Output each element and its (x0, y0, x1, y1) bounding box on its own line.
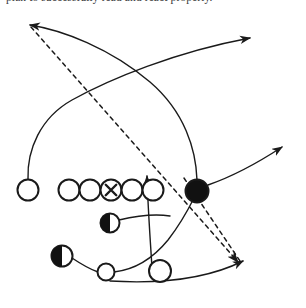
player-back-open-right (149, 260, 171, 282)
route-route-back-connect (72, 258, 98, 272)
route-route-flat-right (208, 147, 282, 185)
figure-page: plan to successfully read and react prop… (0, 0, 306, 308)
player-lineman-3 (122, 180, 143, 201)
player-marker-open-circle (122, 180, 143, 201)
player-half-fill (52, 246, 63, 267)
player-back-open-low (98, 264, 115, 281)
route-route-left-sweep (28, 38, 250, 179)
player-back-half-left (52, 246, 73, 267)
player-marker-open-circle (59, 180, 80, 201)
route-route-dash-long (31, 27, 238, 262)
player-lineman-4 (143, 180, 164, 201)
player-lineman-split-left (18, 180, 39, 201)
player-marker-open-circle (98, 264, 115, 281)
player-end-filled (186, 180, 209, 203)
player-marker-open-circle (80, 180, 101, 201)
player-marker-filled-circle (186, 180, 209, 203)
player-center-x (101, 180, 122, 201)
player-marker-open-circle (143, 180, 164, 201)
route-route-deep-cross (30, 25, 197, 180)
routes-layer (28, 25, 282, 282)
player-back-half-mid (101, 214, 120, 233)
player-lineman-1 (59, 180, 80, 201)
player-lineman-2 (80, 180, 101, 201)
player-marker-open-circle (18, 180, 39, 201)
player-marker-open-circle (149, 260, 171, 282)
route-route-bottom-swing (110, 261, 243, 282)
route-route-half-mid-tail (119, 215, 170, 220)
football-play-diagram (0, 0, 306, 308)
